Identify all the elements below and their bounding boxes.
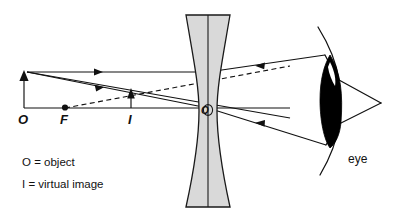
label-lens-centre: O [201, 105, 209, 116]
label-image-point: I [128, 112, 132, 127]
legend-block: O = object I = virtual image [22, 156, 104, 190]
ray-refracted-upper [208, 55, 325, 72]
label-object-point: O [18, 112, 28, 127]
eye-edge-top-right [339, 80, 381, 103]
label-eye: eye [348, 152, 368, 166]
label-focal-point: F [60, 112, 69, 127]
optics-diagram-canvas: O F I O eye O = object I = virtual image [0, 0, 396, 220]
ray-incident-through-centre [27, 72, 208, 108]
legend-row-object: O = object [22, 156, 76, 168]
optics-diagram-root: O F I O eye O = object I = virtual image [0, 0, 396, 220]
legend-row-image: I = virtual image [22, 178, 104, 190]
ray-arrowhead-parallel-in [94, 69, 103, 76]
eye-edge-bottom-right [339, 103, 381, 124]
ray-arrowhead-upper-out [255, 62, 265, 69]
focal-point-dot [62, 104, 68, 110]
